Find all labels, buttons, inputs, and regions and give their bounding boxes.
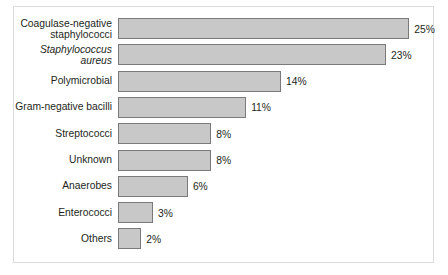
bar-value-label: 11% [246,102,271,113]
bar [118,202,153,223]
bar-category-label: Enterococci [0,207,118,218]
bar-category-label: Gram-negative bacilli [0,102,118,113]
bar-category-label: Polymicrobial [0,75,118,86]
bar-value-label: 8% [211,155,231,166]
bar-category-label: Streptococci [0,128,118,139]
bar [118,18,409,39]
bar-category-label: Staphylococcus aureus [0,43,118,66]
bar [118,176,188,197]
bar-value-label: 25% [409,23,435,34]
bar-value-label: 8% [211,128,231,139]
bar-category-label: Unknown [0,154,118,165]
bar-category-label: Anaerobes [0,181,118,192]
bar [118,123,211,144]
bar [118,71,281,92]
bar-value-label: 6% [188,181,208,192]
bar-value-label: 2% [141,233,161,244]
bar-value-label: 3% [153,207,173,218]
bar-category-label: Others [0,233,118,244]
chart-frame: Coagulase-negative staphylococci25%Staph… [13,6,434,263]
bar [118,44,386,65]
bar [118,150,211,171]
bar [118,228,141,249]
bar [118,97,246,118]
bar-value-label: 14% [281,76,307,87]
bar-value-label: 23% [386,49,412,60]
bar-category-label: Coagulase-negative staphylococci [0,17,118,40]
plot-area: Coagulase-negative staphylococci25%Staph… [14,7,433,262]
